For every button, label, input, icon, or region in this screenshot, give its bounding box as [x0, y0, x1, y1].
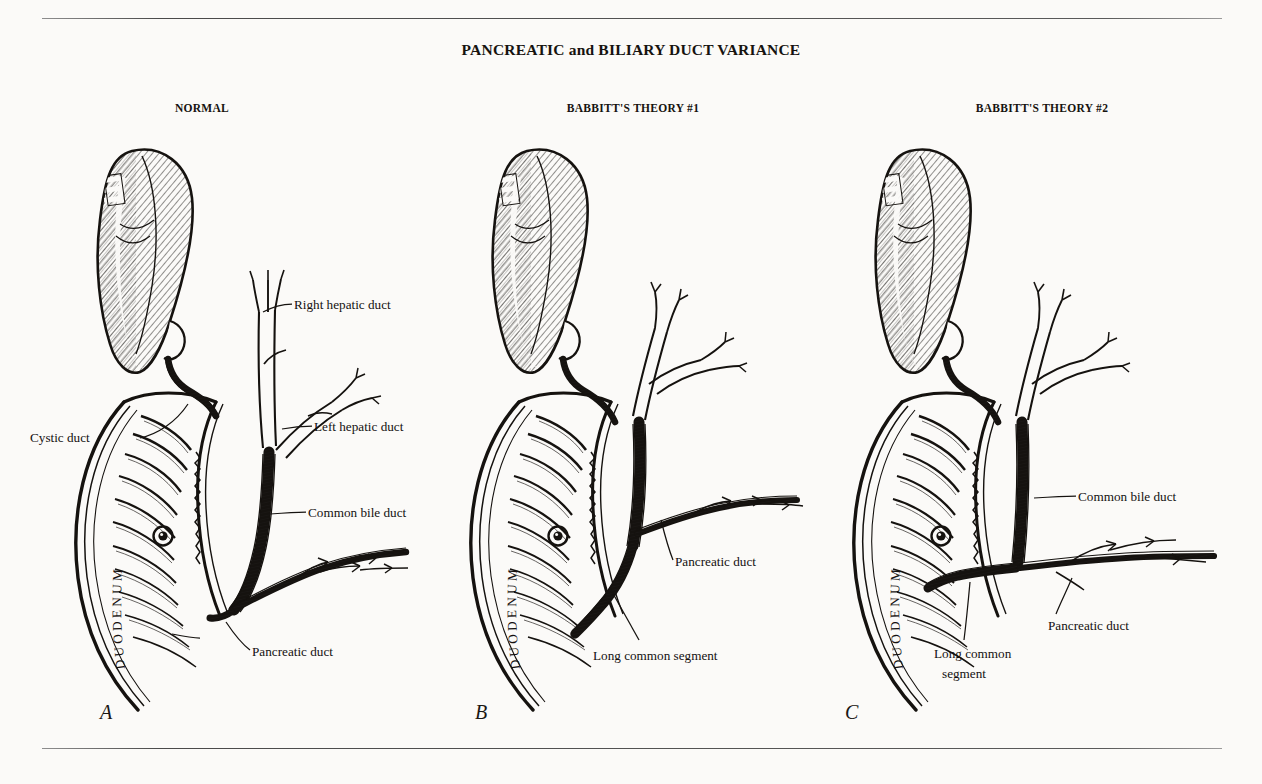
gallbladder-a — [80, 136, 220, 386]
cystic-duct-c — [946, 359, 998, 422]
long-common-segment-c — [928, 563, 1016, 588]
label-cystic-duct-a: Cystic duct — [30, 430, 90, 445]
panel-c-babbitt-theory-2: BABBITT'S THEORY #2 — [810, 88, 1250, 738]
top-divider-rule — [42, 18, 1222, 19]
figure-page: PANCREATIC and BILIARY DUCT VARIANCE NOR… — [0, 0, 1262, 784]
label-pancreatic-duct-b: Pancreatic duct — [675, 554, 756, 569]
panel-c-letter: C — [845, 701, 858, 724]
panel-a-normal: NORMAL — [20, 88, 440, 738]
panel-b-babbitt-theory-1: BABBITT'S THEORY #1 — [425, 88, 825, 738]
figure-title: PANCREATIC and BILIARY DUCT VARIANCE — [0, 41, 1262, 59]
label-long-common-segment-line2-c: segment — [942, 666, 986, 681]
common-bile-duct-c — [1012, 422, 1029, 563]
leader-cystic-duct-a — [140, 404, 188, 438]
label-left-hepatic-duct-a: Left hepatic duct — [314, 419, 404, 434]
label-pancreatic-duct-c: Pancreatic duct — [1048, 618, 1129, 633]
duodenal-papilla-c — [932, 527, 951, 546]
duodenum-label-c: DUODENUM — [887, 566, 906, 670]
panel-c-title: BABBITT'S THEORY #2 — [822, 102, 1262, 114]
label-long-common-segment-b: Long common segment — [593, 648, 718, 663]
label-right-hepatic-duct-a: Right hepatic duct — [294, 297, 391, 312]
hepatic-ducts-b — [633, 282, 747, 420]
panel-a-letter: A — [100, 701, 112, 724]
duodenal-papilla-b — [549, 527, 568, 546]
label-common-bile-duct-c: Common bile duct — [1078, 489, 1177, 504]
panel-b-illustration: DUODENUM — [425, 116, 825, 716]
label-common-bile-duct-a: Common bile duct — [308, 505, 407, 520]
label-pancreatic-duct-a: Pancreatic duct — [252, 644, 333, 659]
panel-a-illustration: DUODENUM — [20, 116, 440, 716]
long-common-segment-b — [572, 546, 633, 634]
panel-c-illustration: DUODENUM — [810, 116, 1250, 716]
duodenum-label-b: DUODENUM — [504, 566, 523, 670]
pancreatic-duct-c — [1020, 537, 1214, 590]
duodenal-papilla-a — [154, 527, 173, 546]
cystic-duct-a — [166, 359, 216, 418]
bottom-divider-rule — [42, 748, 1222, 749]
gallbladder-b — [475, 136, 615, 386]
pancreatic-duct-b — [636, 496, 803, 534]
hepatic-ducts-c — [1016, 282, 1130, 420]
panel-b-letter: B — [475, 701, 487, 724]
duodenum-c: DUODENUM — [854, 393, 1006, 710]
common-bile-duct-b — [627, 422, 646, 547]
cystic-duct-b — [563, 359, 615, 422]
gallbladder-c — [858, 136, 998, 386]
duodenum-label-a: DUODENUM — [109, 566, 128, 670]
label-long-common-segment-line1-c: Long common — [934, 646, 1012, 661]
duodenum-a: DUODENUM — [76, 393, 228, 710]
panel-a-title: NORMAL — [0, 102, 412, 114]
panel-b-title: BABBITT'S THEORY #1 — [433, 102, 833, 114]
ampulla-junction-a — [210, 610, 234, 618]
